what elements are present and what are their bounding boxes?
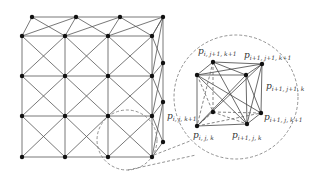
lattice-nodes: [20, 15, 264, 159]
label-subscript: i+1, j+1, k: [272, 85, 305, 92]
edge: [32, 17, 65, 36]
cube-edge: [213, 62, 247, 124]
lattice-node: [20, 114, 24, 118]
lattice-grid: [22, 17, 163, 157]
edge: [152, 102, 163, 157]
label-subscript: i+1, j+1, k+1: [250, 54, 292, 61]
lattice-node: [106, 34, 110, 38]
zoom-connector: [154, 141, 190, 155]
lattice-node: [106, 74, 110, 78]
lattice-node: [150, 114, 154, 118]
unit-cube-solid-edges: [197, 62, 262, 126]
lattice-node: [161, 15, 165, 19]
cube-hidden-edge: [197, 62, 213, 126]
lattice-node: [150, 74, 154, 78]
cube-node-ftr: [244, 73, 248, 77]
lattice-node: [150, 155, 154, 159]
node-label-p_i1_j1_k1: pi+1, j+1, k+1: [244, 51, 291, 61]
cube-node-fbl: [195, 124, 199, 128]
node-label-p_i_j_k: pi, j, k: [193, 131, 214, 141]
node-label-p_i_j_k1: pi, j, k+1: [167, 112, 197, 122]
lattice-node: [30, 15, 34, 19]
cube-edge: [246, 75, 247, 124]
lattice-node: [118, 15, 122, 19]
cube-hidden-edge: [197, 113, 261, 126]
node-label-p_i1_j_k1: pi+1, j, k+1: [264, 113, 303, 123]
node-label-p_i1_j_k: pi+1, j, k: [232, 131, 262, 141]
lattice-node: [161, 61, 165, 65]
cube-node-bbl: [211, 110, 215, 114]
cube-node-ftl: [195, 73, 199, 77]
lattice-node: [74, 15, 78, 19]
cube-node-btr: [260, 62, 264, 66]
small-zoom-circle: [97, 110, 157, 170]
cube-node-fbr: [245, 122, 249, 126]
node-label-p_i1_j1_k: pi+1, j+1, k: [266, 82, 305, 92]
cube-node-bbr: [259, 111, 263, 115]
cube-edge: [197, 75, 261, 113]
cube-hidden-edge: [213, 112, 247, 124]
lattice-node: [63, 155, 67, 159]
edge: [76, 17, 108, 36]
edge: [152, 36, 163, 63]
lattice-node: [20, 155, 24, 159]
label-subscript: i, j+1, k+1: [204, 50, 237, 57]
lattice-node: [106, 155, 110, 159]
cube-edge: [213, 62, 262, 64]
lattice-node: [63, 74, 67, 78]
cube-edge: [213, 62, 246, 75]
lattice-node: [20, 74, 24, 78]
label-subscript: i, j, k: [199, 134, 214, 141]
label-subscript: i+1, j, k+1: [270, 116, 303, 123]
cube-edge: [246, 75, 261, 113]
lattice-node: [20, 34, 24, 38]
label-subscript: i+1, j, k: [238, 134, 262, 141]
lattice-node: [150, 34, 154, 38]
lattice-node: [63, 34, 67, 38]
lattice-node: [161, 140, 165, 144]
cube-node-btl: [211, 60, 215, 64]
cube-hidden-edge: [213, 112, 261, 113]
label-subscript: i, j, k+1: [173, 115, 197, 122]
lattice-node: [63, 114, 67, 118]
edge: [120, 17, 152, 36]
edge: [108, 17, 120, 36]
edge: [152, 63, 163, 116]
lattice-node: [106, 114, 110, 118]
node-label-p_i_j1_k1: pi, j+1, k+1: [198, 47, 237, 57]
lattice-node: [161, 100, 165, 104]
cube-edge: [261, 64, 262, 113]
